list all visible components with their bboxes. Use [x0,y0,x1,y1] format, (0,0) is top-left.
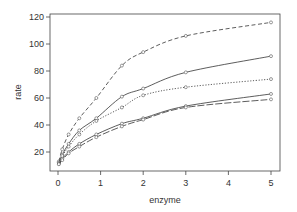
series-group [57,21,272,166]
x-tick-label: 0 [55,178,60,188]
data-point [142,51,145,54]
data-point [270,21,273,24]
x-tick-label: 5 [268,178,273,188]
data-point [61,159,64,162]
data-point [78,117,81,120]
data-point [120,125,123,128]
x-tick-label: 4 [226,178,231,188]
data-point [78,129,81,132]
data-point [270,55,273,58]
y-tick-label: 100 [29,39,44,49]
data-point [270,98,273,101]
y-tick-label: 20 [34,147,44,157]
series-line-1 [59,22,271,161]
data-point [142,94,145,97]
chart: 20406080100120 012345 enzyme rate [0,0,297,212]
series-line-3 [59,79,271,163]
series-line-2 [59,56,271,163]
data-point [67,133,70,136]
data-point [184,106,187,109]
series-line-5 [59,99,271,164]
data-point [120,64,123,67]
data-point [184,86,187,89]
data-point [95,136,98,139]
data-point [184,34,187,37]
data-point [57,163,60,166]
plot-frame [50,14,280,171]
data-point [67,152,70,155]
y-axis-label: rate [13,84,23,100]
data-point [67,145,70,148]
y-tick-label: 120 [29,12,44,22]
data-point [142,118,145,121]
x-tick-label: 2 [141,178,146,188]
x-tick-label: 1 [98,178,103,188]
data-point [78,133,81,136]
y-tick-label: 80 [34,66,44,76]
data-point [270,78,273,81]
data-point [61,148,64,151]
data-point [120,106,123,109]
x-axis: 012345 [55,171,273,188]
y-tick-label: 60 [34,93,44,103]
data-point [184,71,187,74]
x-axis-label: enzyme [149,195,181,205]
x-tick-label: 3 [183,178,188,188]
data-point [142,87,145,90]
data-point [95,119,98,122]
data-point [270,92,273,95]
data-point [95,97,98,100]
y-axis: 20406080100120 [29,12,50,157]
data-point [78,145,81,148]
y-tick-label: 40 [34,120,44,130]
data-point [120,95,123,98]
